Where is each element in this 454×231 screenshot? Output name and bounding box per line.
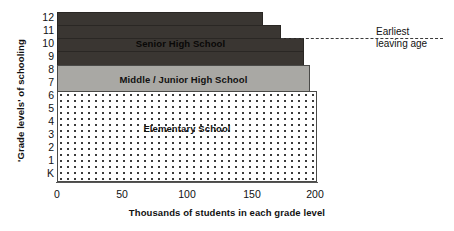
x-tick-100: 100 bbox=[178, 188, 196, 200]
segment-label-senior-high: Senior High School bbox=[57, 38, 304, 49]
plot-area: Senior High School Middle / Junior High … bbox=[57, 12, 317, 182]
bar-grade-12 bbox=[57, 12, 263, 25]
y-tick-K: K bbox=[32, 168, 54, 179]
y-tick-4: 4 bbox=[32, 116, 54, 127]
y-tick-2: 2 bbox=[32, 142, 54, 153]
segment-label-elementary: Elementary School bbox=[58, 123, 316, 134]
y-tick-1: 1 bbox=[32, 155, 54, 166]
school-enrollment-chart: 'Grade levels' of schooling 12 11 10 9 8… bbox=[0, 0, 454, 231]
x-axis-line bbox=[56, 182, 318, 183]
y-tick-11: 11 bbox=[32, 25, 54, 36]
y-tick-10: 10 bbox=[32, 38, 54, 49]
x-tick-50: 50 bbox=[116, 188, 128, 200]
bar-grade-9 bbox=[57, 51, 304, 65]
x-axis-title: Thousands of students in each grade leve… bbox=[0, 207, 454, 218]
y-tick-5: 5 bbox=[32, 103, 54, 114]
segment-label-middle-junior-high: Middle / Junior High School bbox=[58, 74, 309, 85]
x-tick-0: 0 bbox=[54, 188, 60, 200]
y-tick-12: 12 bbox=[32, 12, 54, 23]
y-tick-8: 8 bbox=[32, 64, 54, 75]
x-tick-200: 200 bbox=[306, 188, 324, 200]
y-tick-7: 7 bbox=[32, 77, 54, 88]
y-tick-9: 9 bbox=[32, 51, 54, 62]
earliest-leaving-age-label: Earliest leaving age bbox=[376, 26, 427, 50]
y-axis-tick-labels: 12 11 10 9 8 7 6 5 4 3 2 1 K bbox=[22, 0, 54, 231]
earliest-leaving-age-line1: Earliest bbox=[376, 26, 427, 38]
y-tick-6: 6 bbox=[32, 90, 54, 101]
x-tick-150: 150 bbox=[243, 188, 261, 200]
y-tick-3: 3 bbox=[32, 129, 54, 140]
earliest-leaving-age-line2: leaving age bbox=[376, 38, 427, 50]
bar-grade-11 bbox=[57, 25, 281, 38]
bar-middle-junior-high: Middle / Junior High School bbox=[57, 65, 310, 91]
bar-elementary: Elementary School bbox=[57, 91, 317, 182]
